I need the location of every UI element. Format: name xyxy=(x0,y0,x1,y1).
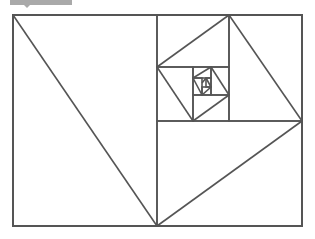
spiral-diagonal xyxy=(202,87,211,95)
spiral-diagonal xyxy=(193,78,202,95)
spiral-diagonal xyxy=(13,15,157,226)
golden-spiral-diagram xyxy=(0,0,315,239)
spiral-diagonal xyxy=(211,67,229,95)
spiral-diagonal xyxy=(193,95,229,121)
spiral-diagonal xyxy=(157,15,229,67)
spiral-diagonal xyxy=(193,67,211,78)
spiral-diagonal xyxy=(157,121,302,226)
spiral-diagonal xyxy=(157,67,193,121)
spiral-diagonal xyxy=(229,15,302,121)
